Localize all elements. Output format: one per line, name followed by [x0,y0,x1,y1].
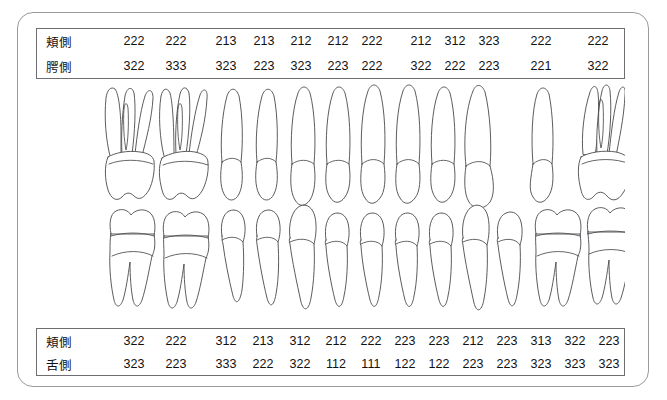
lower-buccal-cells: 3222223122133122122222232232122233133222… [37,329,624,352]
lower-lingual-cell[interactable]: 222 [252,357,273,371]
upper-palatal-cell[interactable]: 323 [290,59,311,73]
upper-tooth-canine-left[interactable] [291,87,315,205]
teeth-illustration-area [36,84,625,320]
upper-buccal-cells: 222222213213212212222212312323222222 [37,29,624,54]
upper-palatal-cell[interactable]: 222 [361,59,382,73]
upper-tooth-lateral-incisor-left[interactable] [326,87,350,202]
lower-buccal-cell[interactable]: 212 [462,334,483,348]
lower-tooth-molar-2[interactable] [163,212,209,308]
lower-tooth-premolar-lower-3[interactable] [497,212,522,306]
lower-buccal-cell[interactable]: 223 [598,334,619,348]
upper-tooth-molar-2[interactable] [159,88,208,200]
upper-buccal-cell[interactable]: 312 [444,34,465,48]
upper-palatal-cells: 322333323223323223222322222223221322 [37,54,624,79]
lower-lingual-cell[interactable]: 112 [326,357,346,371]
lower-tooth-lateral-incisor-lower-right[interactable] [429,213,453,306]
lower-buccal-cell[interactable]: 313 [530,334,551,348]
lower-tooth-canine-lower-left[interactable] [289,205,316,309]
lower-tooth-premolar-lower-2[interactable] [256,210,280,305]
upper-tooth-premolar-1[interactable] [221,89,243,200]
upper-measurement-table[interactable]: 頬側 222222213213212212222212312323222222 … [36,28,625,79]
lower-buccal-cell[interactable]: 312 [289,334,310,348]
upper-table-row-palatal[interactable]: 腭側 322333323223323223222322222223221322 [37,54,624,79]
lower-buccal-cell[interactable]: 222 [165,334,186,348]
upper-buccal-cell[interactable]: 222 [530,34,551,48]
upper-tooth-premolar-isolated[interactable] [530,88,553,202]
lower-buccal-cell[interactable]: 312 [215,334,236,348]
upper-palatal-cell[interactable]: 221 [530,59,551,73]
lower-lingual-cell[interactable]: 323 [564,357,585,371]
upper-buccal-cell[interactable]: 212 [410,34,431,48]
upper-palatal-cell[interactable]: 333 [165,59,186,73]
lower-buccal-cell[interactable]: 223 [496,334,517,348]
upper-palatal-cell[interactable]: 322 [587,59,608,73]
upper-buccal-cell[interactable]: 222 [587,34,608,48]
lower-table-row-lingual[interactable]: 舌側 3232233332223221121111221222232233233… [37,352,624,375]
upper-palatal-cell[interactable]: 223 [253,59,274,73]
lower-buccal-cell[interactable]: 213 [252,334,273,348]
lower-measurement-table[interactable]: 頬側 3222223122133122122222232232122233133… [36,328,625,376]
lower-arch-group [110,205,625,310]
lower-lingual-cell[interactable]: 122 [428,357,449,371]
upper-tooth-central-incisor-left[interactable] [361,85,385,203]
lower-lingual-cell[interactable]: 322 [289,357,310,371]
upper-buccal-cell[interactable]: 213 [215,34,236,48]
upper-palatal-cell[interactable]: 322 [123,59,144,73]
lower-lingual-cell[interactable]: 323 [123,357,144,371]
upper-palatal-cell[interactable]: 223 [327,59,348,73]
lower-tooth-central-incisor-lower-left[interactable] [360,213,384,306]
upper-buccal-cell[interactable]: 212 [327,34,348,48]
lower-lingual-cell[interactable]: 323 [598,357,619,371]
lower-lingual-cells: 3232233332223221121111221222232233233233… [37,352,624,375]
upper-table-row-buccal[interactable]: 頬側 222222213213212212222212312323222222 [37,29,624,54]
lower-lingual-cell[interactable]: 333 [215,357,236,371]
upper-tooth-premolar-2[interactable] [256,89,278,200]
lower-lingual-cell[interactable]: 223 [165,357,186,371]
upper-tooth-central-incisor-right[interactable] [396,85,420,203]
dental-chart-root: 頬側 222222213213212212222212312323222222 … [0,0,667,400]
lower-lingual-cell[interactable]: 111 [361,357,380,371]
lower-buccal-cell[interactable]: 322 [123,334,144,348]
upper-tooth-molar-isolated[interactable] [578,85,625,200]
lower-tooth-central-incisor-lower-right[interactable] [395,213,419,306]
lower-tooth-lateral-incisor-lower-left[interactable] [325,213,349,306]
lower-buccal-cell[interactable]: 223 [428,334,449,348]
lower-tooth-canine-lower-right[interactable] [462,205,489,310]
upper-table-grid: 頬側 222222213213212212222212312323222222 … [37,29,624,78]
teeth-diagram-svg [36,84,625,320]
lower-lingual-cell[interactable]: 223 [496,357,517,371]
lower-tooth-molar-lower-3[interactable] [535,210,581,306]
upper-palatal-cell[interactable]: 222 [444,59,465,73]
upper-palatal-cell[interactable]: 223 [478,59,499,73]
upper-tooth-canine-right[interactable] [465,85,494,208]
upper-buccal-cell[interactable]: 222 [165,34,186,48]
upper-buccal-cell[interactable]: 222 [123,34,144,48]
upper-palatal-cell[interactable]: 322 [410,59,431,73]
lower-buccal-cell[interactable]: 223 [394,334,415,348]
lower-lingual-cell[interactable]: 122 [394,357,415,371]
lower-lingual-cell[interactable]: 323 [530,357,551,371]
lower-buccal-cell[interactable]: 222 [360,334,381,348]
upper-buccal-cell[interactable]: 222 [361,34,382,48]
lower-tooth-molar-1[interactable] [110,210,155,306]
upper-tooth-molar-1[interactable] [105,88,154,199]
upper-buccal-cell[interactable]: 213 [253,34,274,48]
lower-tooth-premolar-lower-1[interactable] [221,210,245,302]
upper-buccal-cell[interactable]: 323 [478,34,499,48]
lower-buccal-cell[interactable]: 322 [564,334,585,348]
lower-tooth-molar-lower-4[interactable] [587,208,625,304]
lower-lingual-cell[interactable]: 223 [462,357,483,371]
upper-palatal-cell[interactable]: 323 [215,59,236,73]
lower-table-row-buccal[interactable]: 頬側 3222223122133122122222232232122233133… [37,329,624,352]
lower-buccal-cell[interactable]: 212 [325,334,346,348]
upper-tooth-lateral-incisor-right[interactable] [431,87,455,202]
upper-buccal-cell[interactable]: 212 [290,34,311,48]
upper-arch-group [105,85,625,208]
lower-table-grid: 頬側 3222223122133122122222232232122233133… [37,329,624,375]
